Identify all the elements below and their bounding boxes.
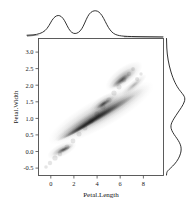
x-axis: 0 2 4 6 8 Petal.Length <box>49 176 145 200</box>
x-tick-label: 6 <box>119 180 122 187</box>
y-tick-label: 3.0 <box>26 48 34 55</box>
y-axis-title: Petal.Width <box>12 90 20 123</box>
y-axis: -0.5 0.0 0.5 1.0 1.5 2.0 2.5 3.0 Petal.W… <box>12 48 39 171</box>
y-tick-label: 2.0 <box>26 82 34 89</box>
y-tick-label: 2.5 <box>26 65 34 72</box>
x-tick-label: 8 <box>142 180 145 187</box>
x-tick-label: 2 <box>72 180 75 187</box>
chart-canvas: 0 2 4 6 8 Petal.Length -0.5 0.0 0.5 1.0 … <box>0 0 195 205</box>
y-tick-label: 1.5 <box>26 98 34 105</box>
top-marginal-density <box>27 11 163 38</box>
right-marginal-density <box>167 39 185 176</box>
y-tick-label: 0.0 <box>26 148 34 155</box>
scatter-density-figure: 0 2 4 6 8 Petal.Length -0.5 0.0 0.5 1.0 … <box>0 0 195 205</box>
x-axis-title: Petal.Length <box>83 191 119 199</box>
y-tick-label: -0.5 <box>23 164 33 171</box>
x-tick-label: 0 <box>49 180 52 187</box>
point-cloud <box>41 56 160 169</box>
y-tick-label: 0.5 <box>26 131 34 138</box>
y-tick-label: 1.0 <box>26 115 34 122</box>
x-tick-label: 4 <box>95 180 99 187</box>
